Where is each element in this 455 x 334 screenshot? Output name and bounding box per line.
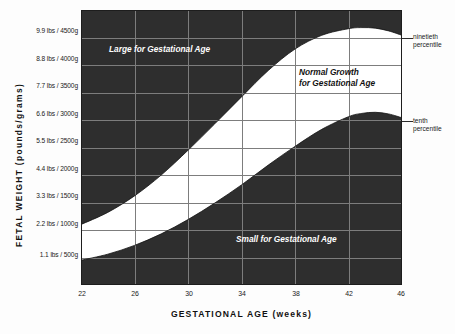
- y-tick-label: 6.6 lbs / 3000g: [4, 110, 78, 118]
- x-axis-tick-labels: 22 26 30 34 38 42 46: [0, 290, 455, 302]
- x-tick-label: 34: [238, 290, 246, 297]
- y-tick-label: 9.9 lbs / 4500g: [4, 27, 78, 35]
- zone-label-normal-line1: Normal Growth: [299, 67, 375, 78]
- annotation-line2: percentile: [413, 41, 442, 49]
- y-tick-label: 2.2 lbs / 1000g: [4, 220, 78, 228]
- annotation-line2: percentile: [413, 125, 442, 133]
- y-tick-label: 1.1 lbs / 500g: [4, 251, 78, 259]
- tenth-percentile-annotation: tenth percentile: [413, 117, 442, 132]
- zone-label-normal-line2: for Gestational Age: [299, 78, 375, 89]
- zone-label-normal-growth: Normal Growth for Gestational Age: [299, 67, 375, 89]
- x-tick-label: 38: [292, 290, 300, 297]
- annotation-line1: tenth: [413, 117, 442, 125]
- y-axis-tick-labels: 9.9 lbs / 4500g 8.8 lbs / 4000g 7.7 lbs …: [0, 0, 78, 334]
- zone-label-small-for-gestational-age: Small for Gestational Age: [236, 234, 337, 245]
- y-tick-label: 4.4 lbs / 2000g: [4, 165, 78, 173]
- x-tick-label: 22: [78, 290, 86, 297]
- plot-area: Large for Gestational Age Normal Growth …: [81, 10, 402, 285]
- y-tick-label: 8.8 lbs / 4000g: [4, 55, 78, 63]
- y-tick-label: 3.3 lbs / 1500g: [4, 192, 78, 200]
- x-axis-title: GESTATIONAL AGE (weeks): [81, 309, 402, 319]
- annotation-line1: ninetieth: [413, 33, 442, 41]
- y-tick-label: 5.5 lbs / 2500g: [4, 137, 78, 145]
- ninetieth-percentile-leader-line: [402, 38, 413, 39]
- x-tick-label: 30: [185, 290, 193, 297]
- tenth-percentile-leader-line: [402, 121, 413, 122]
- x-tick-label: 42: [345, 290, 353, 297]
- x-tick-label: 46: [397, 290, 405, 297]
- ninetieth-percentile-annotation: ninetieth percentile: [413, 33, 442, 48]
- fetal-growth-chart-figure: FETAL WEIGHT (pounds/grams) 9.9 lbs / 45…: [0, 0, 455, 334]
- zone-label-large-for-gestational-age: Large for Gestational Age: [109, 44, 210, 55]
- y-tick-label: 7.7 lbs / 3500g: [4, 82, 78, 90]
- x-tick-label: 26: [131, 290, 139, 297]
